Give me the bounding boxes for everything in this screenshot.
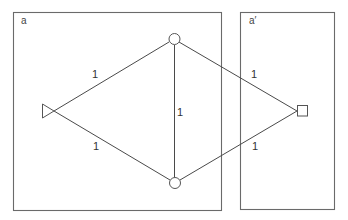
panel-a-prime-label: a′ <box>249 15 257 26</box>
source-node-triangle <box>43 104 55 118</box>
panel-a-prime <box>241 13 335 210</box>
weight-label-top-sink: 1 <box>251 68 257 80</box>
edge-source-top <box>54 42 169 111</box>
network-diagram: a a′ 1 1 1 1 1 <box>0 0 348 220</box>
weight-label-top-bottom: 1 <box>177 106 183 118</box>
edge-top-sink <box>179 42 297 111</box>
panel-a-label: a <box>21 15 27 26</box>
sink-node-square <box>298 106 308 117</box>
top-node-circle <box>169 34 180 45</box>
weight-label-bottom-sink: 1 <box>252 140 258 152</box>
weight-label-source-bottom: 1 <box>93 140 99 152</box>
edge-source-bottom <box>54 111 170 180</box>
bottom-node-circle <box>170 178 181 189</box>
edge-bottom-sink <box>180 111 297 180</box>
weight-label-source-top: 1 <box>92 68 98 80</box>
